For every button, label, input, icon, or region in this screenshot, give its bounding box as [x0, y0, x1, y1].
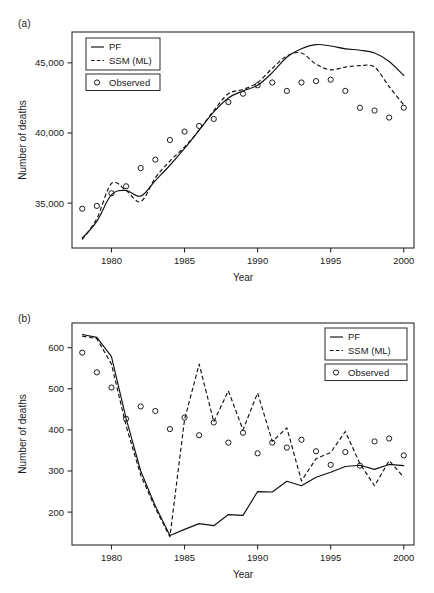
- legend-lines-box[interactable]: PFSSM (ML): [325, 328, 407, 360]
- legend-lines-box[interactable]: PFSSM (ML): [86, 38, 160, 70]
- panel-a-label: (a): [18, 18, 31, 29]
- observed-point: [94, 370, 99, 375]
- observed-point: [328, 462, 333, 467]
- y-tick-label: 40,000: [35, 127, 64, 138]
- observed-point: [197, 123, 202, 128]
- observed-point: [270, 80, 275, 85]
- panel-a: (a) 1980198519901995200035,00040,00045,0…: [0, 0, 434, 295]
- svg-text:Number of deaths: Number of deaths: [17, 100, 28, 180]
- x-tick-label: 1990: [247, 255, 268, 266]
- x-tick-label: 1995: [320, 255, 341, 266]
- observed-point: [357, 105, 362, 110]
- observed-point: [153, 157, 158, 162]
- x-tick-label: 2000: [393, 255, 414, 266]
- observed-point: [153, 408, 158, 413]
- observed-point: [138, 404, 143, 409]
- legend-ssm-label: SSM (ML): [348, 345, 391, 356]
- observed-point: [313, 78, 318, 83]
- y-tick-label: 35,000: [35, 198, 64, 209]
- observed-point: [197, 433, 202, 438]
- y-axis-title: Number of deaths: [17, 394, 28, 474]
- observed-point: [109, 385, 114, 390]
- observed-point: [387, 115, 392, 120]
- x-tick-label: 1985: [174, 552, 195, 563]
- observed-point: [80, 206, 85, 211]
- x-tick-label: 1995: [320, 552, 341, 563]
- observed-point: [299, 80, 304, 85]
- observed-point: [299, 437, 304, 442]
- observed-point: [240, 430, 245, 435]
- panel-b-label: (b): [18, 313, 31, 324]
- observed-point: [284, 88, 289, 93]
- x-axis-title: Year: [233, 569, 254, 580]
- observed-point: [226, 100, 231, 105]
- observed-point: [401, 453, 406, 458]
- legend-observed-box[interactable]: Observed: [86, 74, 160, 91]
- observed-point: [138, 165, 143, 170]
- observed-point: [284, 445, 289, 450]
- figure-root: (a) 1980198519901995200035,00040,00045,0…: [0, 0, 434, 593]
- observed-point: [343, 449, 348, 454]
- y-axis-title: Number of deaths: [17, 100, 28, 180]
- observed-point: [372, 108, 377, 113]
- panel-a-plot: 1980198519901995200035,00040,00045,000Ye…: [0, 0, 434, 295]
- legend-pf-label: PF: [348, 331, 360, 342]
- y-tick-label: 500: [48, 383, 64, 394]
- panel-b: (b) 19801985199019952000200300400500600Y…: [0, 295, 434, 593]
- y-tick-label: 200: [48, 507, 64, 518]
- observed-point: [226, 440, 231, 445]
- observed-point: [94, 203, 99, 208]
- observed-point: [328, 77, 333, 82]
- x-tick-label: 1990: [247, 552, 268, 563]
- svg-text:Number of deaths: Number of deaths: [17, 394, 28, 474]
- observed-point: [80, 350, 85, 355]
- observed-point: [123, 184, 128, 189]
- observed-point: [211, 116, 216, 121]
- observed-point: [182, 129, 187, 134]
- y-tick-label: 400: [48, 424, 64, 435]
- y-tick-label: 600: [48, 342, 64, 353]
- x-tick-label: 1985: [174, 255, 195, 266]
- observed-point: [240, 91, 245, 96]
- legend-observed-label: Observed: [348, 367, 389, 378]
- legend-observed-label: Observed: [109, 77, 150, 88]
- legend-observed-box[interactable]: Observed: [325, 364, 407, 381]
- x-tick-label: 1980: [101, 255, 122, 266]
- legend-pf-label: PF: [109, 41, 121, 52]
- observed-point: [167, 426, 172, 431]
- observed-point: [343, 88, 348, 93]
- observed-point: [255, 451, 260, 456]
- y-tick-label: 45,000: [35, 57, 64, 68]
- x-tick-label: 2000: [393, 552, 414, 563]
- x-axis-title: Year: [233, 272, 254, 283]
- observed-point: [167, 137, 172, 142]
- observed-point: [372, 439, 377, 444]
- panel-b-plot: 19801985199019952000200300400500600YearN…: [0, 295, 434, 593]
- observed-point: [387, 436, 392, 441]
- x-tick-label: 1980: [101, 552, 122, 563]
- legend-ssm-label: SSM (ML): [109, 55, 152, 66]
- y-tick-label: 300: [48, 465, 64, 476]
- observed-point: [313, 449, 318, 454]
- observed-point: [401, 105, 406, 110]
